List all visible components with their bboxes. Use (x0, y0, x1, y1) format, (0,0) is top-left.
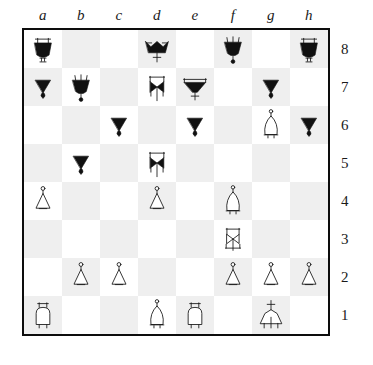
piece-black-bishop-icon[interactable] (176, 68, 214, 106)
square-f6[interactable] (214, 106, 252, 144)
piece-black-rook-icon[interactable] (290, 30, 328, 68)
square-e2[interactable] (176, 258, 214, 296)
square-g3[interactable] (252, 220, 290, 258)
square-f3[interactable] (214, 220, 252, 258)
square-g2[interactable] (252, 258, 290, 296)
file-label-c: c (100, 4, 138, 26)
square-b4[interactable] (62, 182, 100, 220)
piece-black-pawn-icon[interactable] (62, 144, 100, 182)
square-g7[interactable] (252, 68, 290, 106)
square-a7[interactable] (24, 68, 62, 106)
piece-black-queen-icon[interactable] (62, 68, 100, 106)
file-label-h: h (290, 4, 328, 26)
rank-label-6: 6 (336, 106, 362, 144)
square-a6[interactable] (24, 106, 62, 144)
square-d6[interactable] (138, 106, 176, 144)
piece-black-knight-icon[interactable] (138, 144, 176, 182)
piece-black-king-icon[interactable] (138, 30, 176, 68)
square-c3[interactable] (100, 220, 138, 258)
square-f4[interactable] (214, 182, 252, 220)
square-c2[interactable] (100, 258, 138, 296)
square-d3[interactable] (138, 220, 176, 258)
piece-white-knight-icon[interactable] (214, 220, 252, 258)
square-b2[interactable] (62, 258, 100, 296)
square-e7[interactable] (176, 68, 214, 106)
square-b1[interactable] (62, 296, 100, 334)
square-d5[interactable] (138, 144, 176, 182)
square-d2[interactable] (138, 258, 176, 296)
square-f8[interactable] (214, 30, 252, 68)
square-d8[interactable] (138, 30, 176, 68)
square-e4[interactable] (176, 182, 214, 220)
square-a2[interactable] (24, 258, 62, 296)
square-d4[interactable] (138, 182, 176, 220)
square-g1[interactable] (252, 296, 290, 334)
file-label-b: b (62, 4, 100, 26)
piece-black-pawn-icon[interactable] (24, 68, 62, 106)
square-c7[interactable] (100, 68, 138, 106)
rank-label-3: 3 (336, 220, 362, 258)
square-a8[interactable] (24, 30, 62, 68)
square-h5[interactable] (290, 144, 328, 182)
square-c6[interactable] (100, 106, 138, 144)
piece-black-pawn-icon[interactable] (176, 106, 214, 144)
piece-black-queen-icon[interactable] (214, 30, 252, 68)
piece-white-pawn-icon[interactable] (290, 258, 328, 296)
piece-white-pawn-icon[interactable] (100, 258, 138, 296)
square-h6[interactable] (290, 106, 328, 144)
square-h7[interactable] (290, 68, 328, 106)
rank-label-5: 5 (336, 144, 362, 182)
square-h4[interactable] (290, 182, 328, 220)
square-e8[interactable] (176, 30, 214, 68)
piece-black-pawn-icon[interactable] (252, 68, 290, 106)
square-b6[interactable] (62, 106, 100, 144)
square-h3[interactable] (290, 220, 328, 258)
piece-white-pawn-icon[interactable] (62, 258, 100, 296)
piece-white-pawn-icon[interactable] (24, 182, 62, 220)
square-a4[interactable] (24, 182, 62, 220)
piece-black-pawn-icon[interactable] (290, 106, 328, 144)
square-c4[interactable] (100, 182, 138, 220)
square-b7[interactable] (62, 68, 100, 106)
piece-white-king-icon[interactable] (252, 296, 290, 334)
piece-white-bishop-icon[interactable] (252, 106, 290, 144)
piece-white-rook-icon[interactable] (176, 296, 214, 334)
square-h2[interactable] (290, 258, 328, 296)
square-f2[interactable] (214, 258, 252, 296)
square-g5[interactable] (252, 144, 290, 182)
square-f1[interactable] (214, 296, 252, 334)
piece-black-knight-icon[interactable] (138, 68, 176, 106)
square-a5[interactable] (24, 144, 62, 182)
square-b8[interactable] (62, 30, 100, 68)
piece-white-pawn-icon[interactable] (214, 258, 252, 296)
square-h1[interactable] (290, 296, 328, 334)
square-b3[interactable] (62, 220, 100, 258)
rank-label-4: 4 (336, 182, 362, 220)
square-c8[interactable] (100, 30, 138, 68)
square-e3[interactable] (176, 220, 214, 258)
chess-board[interactable] (24, 30, 328, 334)
piece-white-bishop-icon[interactable] (214, 182, 252, 220)
square-h8[interactable] (290, 30, 328, 68)
square-b5[interactable] (62, 144, 100, 182)
square-d7[interactable] (138, 68, 176, 106)
square-e5[interactable] (176, 144, 214, 182)
square-f7[interactable] (214, 68, 252, 106)
square-f5[interactable] (214, 144, 252, 182)
square-g6[interactable] (252, 106, 290, 144)
piece-white-bishop-icon[interactable] (138, 296, 176, 334)
piece-white-rook-icon[interactable] (24, 296, 62, 334)
piece-white-pawn-icon[interactable] (252, 258, 290, 296)
piece-black-rook-icon[interactable] (24, 30, 62, 68)
square-a1[interactable] (24, 296, 62, 334)
square-d1[interactable] (138, 296, 176, 334)
square-g8[interactable] (252, 30, 290, 68)
square-e1[interactable] (176, 296, 214, 334)
square-a3[interactable] (24, 220, 62, 258)
piece-black-pawn-icon[interactable] (100, 106, 138, 144)
square-e6[interactable] (176, 106, 214, 144)
square-c1[interactable] (100, 296, 138, 334)
piece-white-pawn-icon[interactable] (138, 182, 176, 220)
square-c5[interactable] (100, 144, 138, 182)
square-g4[interactable] (252, 182, 290, 220)
